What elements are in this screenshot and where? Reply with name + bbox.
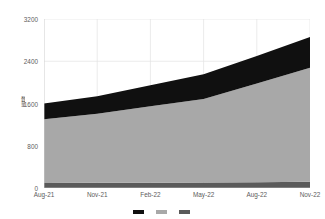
x-axis-tick-label: Aug-21	[34, 191, 55, 198]
y-axis-tick-label: 3200	[4, 16, 38, 23]
y-axis-tick-labels: 0800160024003200	[0, 0, 42, 219]
stacked-area-chart: 数量 0800160024003200 Aug-21Nov-21Feb-22Ma…	[0, 0, 325, 219]
y-axis-tick-label: 800	[4, 142, 38, 149]
y-axis-tick-label: 1600	[4, 100, 38, 107]
legend-swatch	[156, 210, 167, 214]
y-axis-tick-label: 2400	[4, 58, 38, 65]
legend-swatch	[179, 210, 190, 214]
x-axis-tick-label: May-22	[193, 191, 214, 198]
plot-area	[44, 19, 310, 188]
plot-svg	[44, 19, 310, 188]
legend-swatch	[133, 210, 144, 214]
x-axis-tick-label: Nov-22	[300, 191, 321, 198]
x-axis-tick-label: Aug-22	[246, 191, 267, 198]
x-axis-tick-label: Feb-22	[140, 191, 160, 198]
legend-item[interactable]	[133, 209, 147, 214]
series-layers	[44, 37, 310, 188]
chart-legend	[0, 209, 325, 219]
legend-item[interactable]	[156, 209, 170, 214]
legend-item[interactable]	[179, 209, 193, 214]
x-axis-tick-labels: Aug-21Nov-21Feb-22May-22Aug-22Nov-22	[0, 191, 325, 203]
x-axis-tick-label: Nov-21	[87, 191, 108, 198]
